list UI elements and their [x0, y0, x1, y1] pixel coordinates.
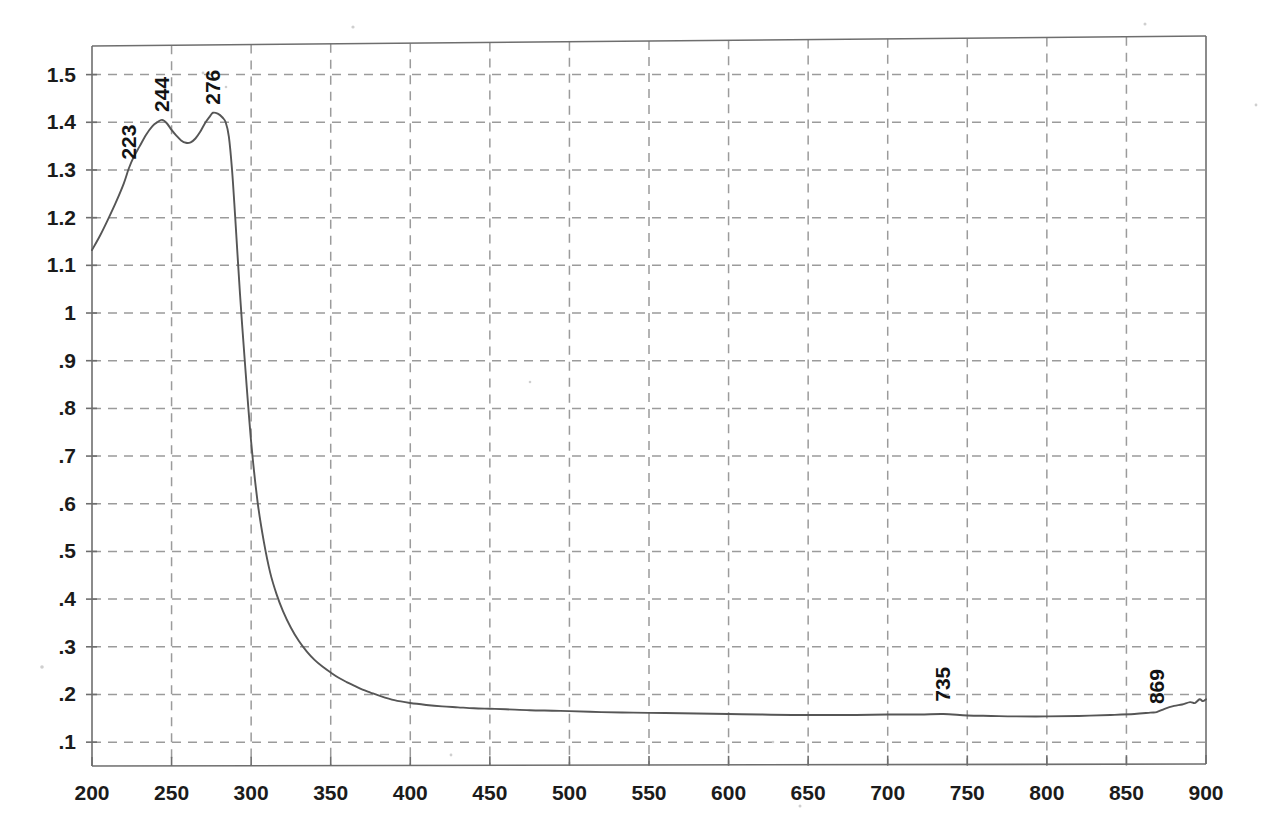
x-tick-label: 400	[393, 781, 428, 804]
x-tick-label: 300	[234, 781, 269, 804]
peak-annotation-label: 223	[117, 125, 140, 160]
uv-vis-spectrum-chart: 2002503003504004505005506006507007508008…	[0, 0, 1281, 831]
x-tick-label: 750	[950, 781, 985, 804]
peak-annotation: 869	[1145, 669, 1168, 704]
x-axis-tick-labels: 2002503003504004505005506006507007508008…	[74, 781, 1223, 804]
peak-annotation-label: 276	[201, 70, 224, 105]
peak-annotation-label: 869	[1145, 669, 1168, 704]
x-tick-label: 700	[870, 781, 905, 804]
peak-annotation: 276	[201, 70, 224, 105]
y-tick-label: .4	[58, 587, 76, 610]
peak-annotation-label: 735	[931, 666, 954, 701]
x-tick-label: 600	[711, 781, 746, 804]
peak-annotation: 244	[150, 77, 173, 112]
x-tick-label: 850	[1109, 781, 1144, 804]
x-tick-label: 550	[631, 781, 666, 804]
peak-annotation-label: 244	[150, 77, 173, 112]
y-tick-label: 1	[64, 301, 76, 324]
y-tick-label: .5	[58, 539, 76, 562]
x-tick-label: 200	[74, 781, 109, 804]
peak-annotation: 223	[117, 125, 140, 160]
y-tick-label: 1.5	[47, 63, 77, 86]
x-tick-label: 800	[1029, 781, 1064, 804]
x-tick-label: 650	[791, 781, 826, 804]
y-tick-label: 1.3	[47, 158, 76, 181]
y-tick-label: .1	[58, 730, 76, 753]
x-tick-label: 450	[472, 781, 507, 804]
x-tick-label: 500	[552, 781, 587, 804]
chart-background	[0, 0, 1281, 831]
y-tick-label: .2	[58, 682, 76, 705]
y-tick-label: 1.1	[47, 253, 77, 276]
y-tick-label: 1.2	[47, 206, 76, 229]
peak-annotation: 735	[931, 666, 954, 701]
x-tick-label: 250	[154, 781, 189, 804]
y-tick-label: .6	[58, 492, 76, 515]
x-tick-label: 900	[1188, 781, 1223, 804]
spectrum-page: 2002503003504004505005506006507007508008…	[0, 0, 1281, 831]
y-tick-label: .3	[58, 635, 76, 658]
y-tick-label: 1.4	[47, 110, 77, 133]
y-tick-label: .7	[58, 444, 76, 467]
x-tick-label: 350	[313, 781, 348, 804]
y-tick-label: .9	[58, 349, 76, 372]
y-tick-label: .8	[58, 396, 76, 419]
